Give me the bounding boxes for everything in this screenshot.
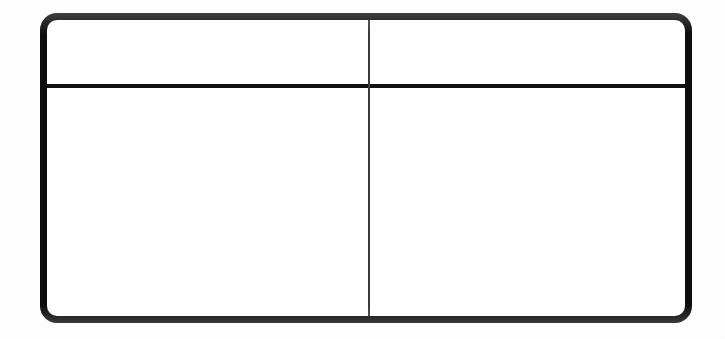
cell-body-right-text — [370, 88, 685, 316]
form-frame — [40, 13, 692, 323]
cell-header-right-text — [370, 20, 685, 84]
cell-header-left[interactable] — [47, 20, 368, 84]
cell-header-right[interactable] — [370, 20, 685, 84]
page-canvas — [0, 0, 725, 339]
cell-body-right[interactable] — [370, 88, 685, 316]
cell-header-left-text — [47, 20, 368, 84]
cell-body-left[interactable] — [47, 88, 368, 316]
cell-body-left-text — [47, 88, 368, 316]
frame-inner — [47, 20, 685, 316]
